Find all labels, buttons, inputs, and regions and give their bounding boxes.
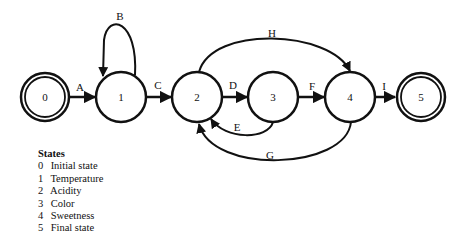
state-node-5-label: 5	[418, 91, 424, 103]
state-node-3-label: 3	[270, 91, 276, 103]
legend-item: 0 Initial state	[38, 160, 103, 172]
edge-label-I: I	[382, 80, 386, 92]
legend-item: 3 Color	[38, 198, 103, 210]
state-node-4: 4	[325, 72, 375, 122]
edge-B	[103, 24, 135, 76]
state-node-0: 0	[21, 73, 69, 121]
legend-item: 4 Sweetness	[38, 210, 103, 222]
edge-label-C: C	[154, 79, 161, 91]
legend-item-num: 0	[38, 160, 48, 172]
state-node-0-label: 0	[42, 91, 48, 103]
legend-item-text: Final state	[51, 222, 94, 233]
state-node-3: 3	[248, 72, 298, 122]
state-node-4-label: 4	[347, 91, 353, 103]
edge-label-G: G	[266, 149, 274, 161]
edge-label-B: B	[116, 10, 123, 22]
edge-H	[199, 38, 350, 72]
states-legend: States 0 Initial state 1 Temperature 2 A…	[38, 148, 103, 234]
state-node-5: 5	[397, 73, 445, 121]
legend-item-num: 2	[38, 185, 48, 197]
legend-item-text: Temperature	[50, 173, 103, 184]
legend-item-num: 3	[38, 198, 48, 210]
legend-item: 2 Acidity	[38, 185, 103, 197]
legend-item-num: 5	[38, 222, 48, 234]
legend-item-text: Color	[51, 198, 75, 209]
legend-item-text: Acidity	[50, 185, 82, 196]
state-node-2: 2	[172, 72, 222, 122]
legend-item-num: 1	[38, 173, 48, 185]
edge-label-H: H	[268, 27, 276, 39]
edge-label-A: A	[76, 81, 84, 93]
legend-item-text: Initial state	[51, 160, 98, 171]
legend-item: 5 Final state	[38, 222, 103, 234]
edge-label-F: F	[309, 80, 315, 92]
state-node-2-label: 2	[194, 91, 200, 103]
legend-item-num: 4	[38, 210, 48, 222]
legend-item: 1 Temperature	[38, 173, 103, 185]
legend-item-text: Sweetness	[51, 210, 95, 221]
legend-title: States	[38, 148, 103, 160]
edge-label-D: D	[229, 79, 237, 91]
state-node-1-label: 1	[118, 91, 124, 103]
state-node-1: 1	[96, 72, 146, 122]
edge-label-E: E	[234, 121, 241, 133]
